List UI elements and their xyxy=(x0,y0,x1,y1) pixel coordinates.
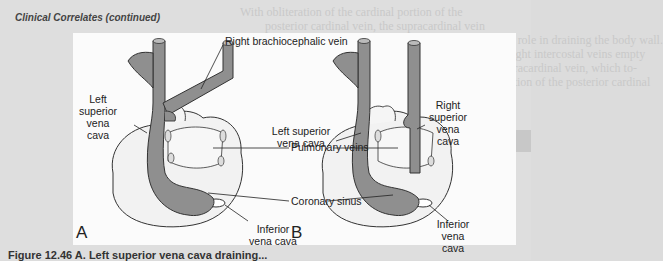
section-header: Clinical Correlates (continued) xyxy=(15,12,160,23)
label-right-superior-vena-cava: Right superior vena cava xyxy=(423,99,473,147)
panel-letter-b: B xyxy=(291,223,302,243)
ghost-text-line: With obliteration of the cardinal portio… xyxy=(240,6,462,19)
figure-caption: Figure 12.46 A. Left superior vena cava … xyxy=(8,249,267,261)
label-line: Left xyxy=(73,93,123,105)
label-line: vena cava xyxy=(261,137,341,149)
label-line: Inferior xyxy=(428,218,478,230)
figure-panel: Right brachiocephalic vein Left superior… xyxy=(73,33,516,245)
label-line: superior xyxy=(423,111,473,123)
label-line: cava xyxy=(428,242,478,254)
label-line: vena xyxy=(73,117,123,129)
label-line: vena xyxy=(428,230,478,242)
label-line: Left superior xyxy=(261,125,341,137)
label-left-superior-vena-cava-a: Left superior vena cava xyxy=(73,93,123,141)
label-inferior-vena-cava-b: Inferior vena cava xyxy=(428,218,478,254)
label-left-superior-vena-cava-b: Left superior vena cava xyxy=(261,125,341,149)
label-line: cava xyxy=(73,129,123,141)
panel-letter-a: A xyxy=(76,223,87,243)
label-line: cava xyxy=(423,135,473,147)
label-coronary-sinus: Coronary sinus xyxy=(291,195,362,207)
label-right-brachiocephalic-vein: Right brachiocephalic vein xyxy=(225,35,348,47)
label-line: Right xyxy=(423,99,473,111)
label-line: superior xyxy=(73,105,123,117)
label-line: vena xyxy=(423,123,473,135)
ghost-text-line: posterior cardinal vein, the supracardin… xyxy=(265,20,485,33)
